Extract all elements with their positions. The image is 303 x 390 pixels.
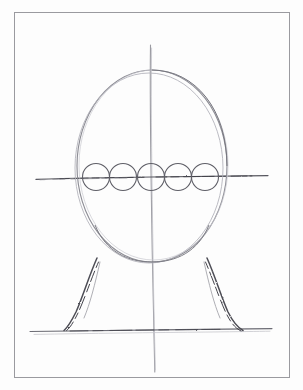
sketch-drawing-canvas	[0, 0, 303, 390]
sketch-page: Head Proportion Construction Sketch fron…	[0, 0, 303, 390]
